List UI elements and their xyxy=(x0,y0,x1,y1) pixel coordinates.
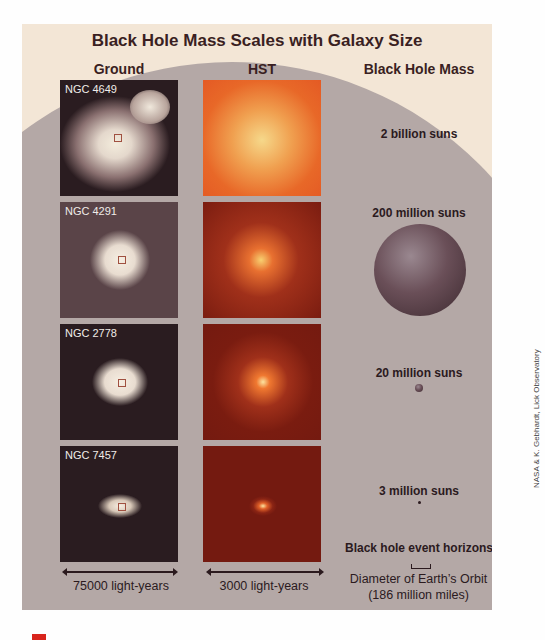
galaxy-label: NGC 4291 xyxy=(65,205,117,217)
hst-field-box xyxy=(118,379,126,387)
mass-label: 20 million suns xyxy=(344,366,492,380)
earth-orbit-miles: (186 million miles) xyxy=(336,588,492,602)
earth-orbit-scale-bracket xyxy=(411,564,431,569)
event-horizons-label: Black hole event horizons xyxy=(344,541,492,555)
hst-image-ngc4291 xyxy=(203,202,321,318)
column-header-hst: HST xyxy=(203,61,321,77)
column-header-mass: Black Hole Mass xyxy=(344,61,492,77)
ground-scale-label: 75000 light-years xyxy=(60,579,182,593)
red-marker xyxy=(32,634,46,640)
ground-scale-arrow xyxy=(66,571,174,573)
ground-image-ngc4291: NGC 4291 xyxy=(60,202,178,318)
galaxy-label: NGC 2778 xyxy=(65,327,117,339)
hst-image-ngc4649 xyxy=(203,80,321,196)
hst-image-ngc2778 xyxy=(203,324,321,440)
mass-label: 200 million suns xyxy=(344,206,492,220)
figure: Black Hole Mass Scales with Galaxy Size … xyxy=(22,24,492,610)
mass-label: 3 million suns xyxy=(344,484,492,498)
ground-image-ngc4649: NGC 4649 xyxy=(60,80,178,196)
ground-image-ngc2778: NGC 2778 xyxy=(60,324,178,440)
event-horizon-sphere-small xyxy=(418,501,421,504)
hst-scale-arrow xyxy=(210,571,320,573)
hst-scale-label: 3000 light-years xyxy=(203,579,325,593)
image-credit: NASA & K. Gebhardt, Lick Observatory xyxy=(532,349,541,488)
event-horizon-sphere-large xyxy=(374,224,466,316)
mass-label: 2 billion suns xyxy=(344,127,492,141)
event-horizon-sphere-medium xyxy=(415,384,423,392)
hst-field-box xyxy=(118,256,126,264)
figure-title: Black Hole Mass Scales with Galaxy Size xyxy=(22,31,492,51)
ground-image-ngc7457: NGC 7457 xyxy=(60,446,178,562)
companion-galaxy xyxy=(130,90,170,124)
galaxy-label: NGC 4649 xyxy=(65,83,117,95)
hst-image-ngc7457 xyxy=(203,446,321,562)
galaxy-label: NGC 7457 xyxy=(65,449,117,461)
hst-field-box xyxy=(118,503,126,511)
hst-field-box xyxy=(114,134,122,142)
column-header-ground: Ground xyxy=(60,61,178,77)
earth-orbit-label: Diameter of Earth’s Orbit xyxy=(336,572,492,586)
